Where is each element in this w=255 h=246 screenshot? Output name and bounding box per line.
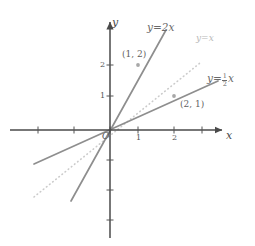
x-axis-label: x <box>226 130 232 141</box>
y-tick-label-2: 2 <box>100 61 105 69</box>
x-tick-label-1: 1 <box>136 134 141 142</box>
line-y-equals-2x <box>71 30 166 201</box>
line-label-y-equals-x: y=x <box>196 34 214 43</box>
point-marker-1-2 <box>136 63 140 67</box>
one-half-fraction: 12 <box>222 73 227 87</box>
line-label-y-equals-2x: y=2x <box>147 22 174 33</box>
half-x-prefix: y= <box>207 72 222 84</box>
point-label-2-1: (2, 1) <box>180 100 204 109</box>
line-label-y-equals-half-x: y=12x <box>207 73 234 87</box>
half-x-variable: x <box>228 72 234 84</box>
fraction-denominator: 2 <box>222 81 227 88</box>
origin-label: O <box>102 132 109 141</box>
line-y-equals-half-x <box>34 81 218 164</box>
y-axis-label: y <box>112 17 118 28</box>
y-tick-label-1: 1 <box>100 92 105 100</box>
point-marker-2-1 <box>172 94 176 98</box>
x-tick-label-2: 2 <box>172 134 177 142</box>
graph-figure: y x O 1 2 1 2 y=2x y=x y=12x (1, 2) (2, … <box>0 0 255 246</box>
graph-canvas <box>0 0 255 246</box>
point-label-1-2: (1, 2) <box>122 50 146 59</box>
